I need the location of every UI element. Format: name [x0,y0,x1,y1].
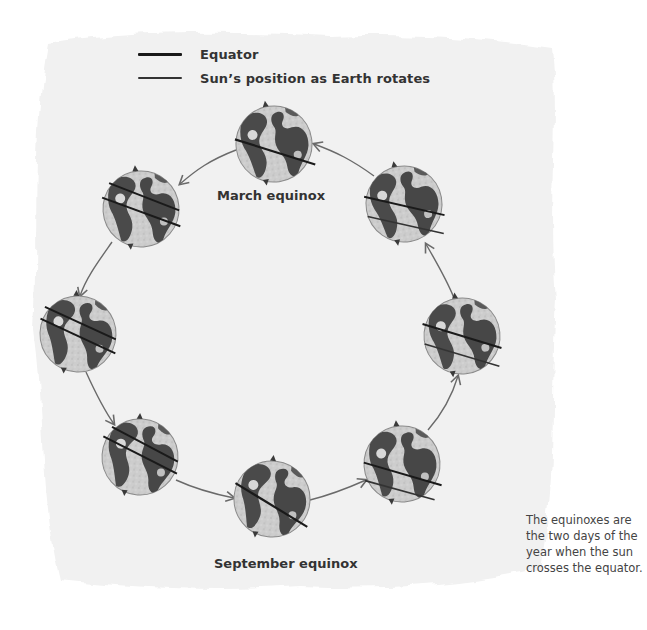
legend-label: Sun’s position as Earth rotates [200,71,430,86]
sun-position-line-swatch [138,77,182,79]
march-equinox-label: March equinox [217,188,325,203]
september-equinox-label: September equinox [214,556,358,571]
caption: The equinoxes are the two days of the ye… [526,512,646,576]
legend-item-sun-position: Sun’s position as Earth rotates [138,66,430,90]
legend-item-equator: Equator [138,42,430,66]
equator-line-swatch [138,53,182,56]
legend-label: Equator [200,47,258,62]
legend: Equator Sun’s position as Earth rotates [138,42,430,90]
